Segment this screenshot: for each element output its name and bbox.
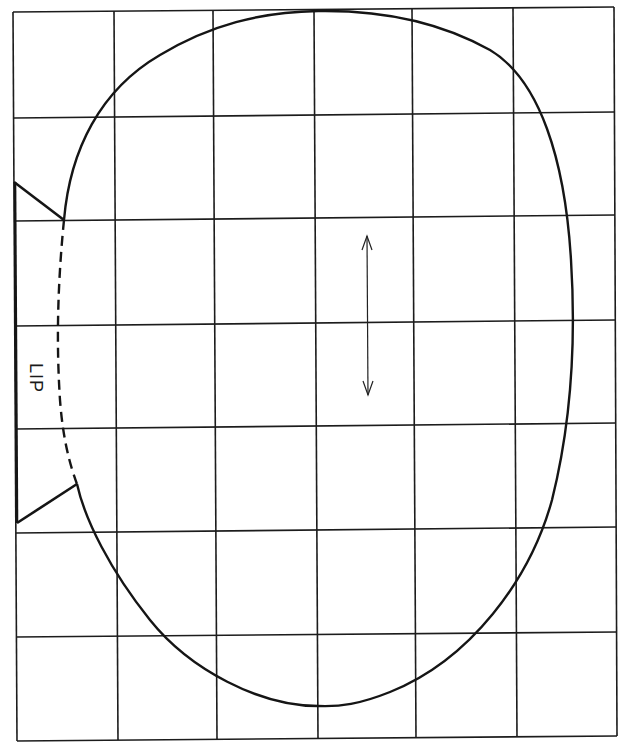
grid-vertical-line <box>614 7 617 736</box>
pattern-diagram: LIP <box>0 0 629 743</box>
grid-vertical-line <box>213 11 217 739</box>
lip-bottom-diagonal <box>17 484 77 523</box>
grid-vertical-line <box>412 9 416 738</box>
grid-vertical-line <box>114 11 118 740</box>
grid-vertical-line <box>513 8 517 737</box>
grid-vertical-line <box>314 10 318 739</box>
grainline-arrow-icon <box>362 236 373 395</box>
grid-horizontal-line <box>17 736 617 741</box>
lip-edge-dashed <box>58 220 77 484</box>
lip-label: LIP <box>26 363 46 393</box>
grid-horizontal-line <box>16 527 616 533</box>
grid <box>13 7 617 741</box>
grid-horizontal-line <box>16 632 617 637</box>
lip-top-diagonal <box>14 182 64 220</box>
